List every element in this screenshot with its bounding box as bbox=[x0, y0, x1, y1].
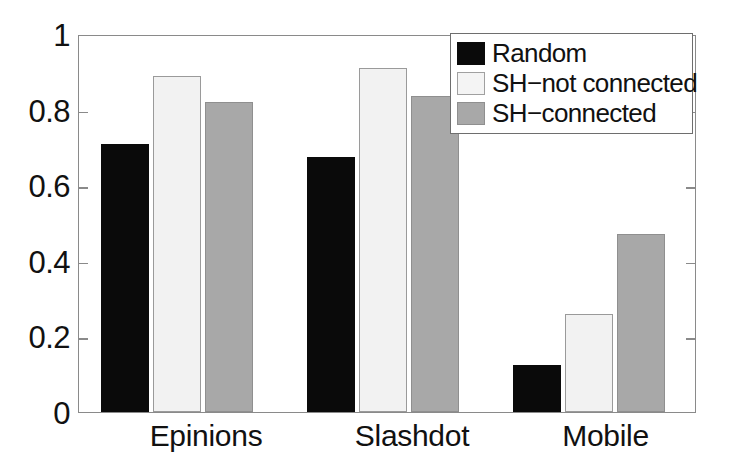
bar-mobile-sh-connected bbox=[617, 234, 665, 412]
x-axis-label-slashdot: Slashdot bbox=[309, 419, 515, 453]
y-tick-label-1: 1 bbox=[8, 20, 70, 51]
bar-chart-figure: 1 0.8 0.6 0.4 0.2 0 Epinions bbox=[0, 0, 729, 468]
y-tickmark-0-2-right bbox=[686, 338, 695, 340]
y-tickmark-0-4-left bbox=[79, 263, 88, 265]
y-axis-tick-labels: 1 0.8 0.6 0.4 0.2 0 bbox=[0, 35, 70, 413]
legend-swatch-random-icon bbox=[457, 42, 485, 65]
legend-label-sh-connected: SH−connected bbox=[492, 100, 656, 126]
bar-mobile-random bbox=[513, 365, 561, 412]
y-tickmark-0-6-right bbox=[686, 187, 695, 189]
y-tick-label-0-8: 0.8 bbox=[8, 95, 70, 126]
bar-slashdot-random bbox=[307, 157, 355, 412]
y-tickmark-0-4-right bbox=[686, 263, 695, 265]
legend-label-sh-not-connected: SH−not connected bbox=[492, 70, 697, 96]
bar-epinions-random bbox=[101, 144, 149, 412]
x-axis-label-epinions: Epinions bbox=[103, 419, 309, 453]
bar-mobile-sh-not-connected bbox=[565, 314, 613, 412]
y-tickmark-0-6-left bbox=[79, 187, 88, 189]
legend-swatch-sh-connected-icon bbox=[457, 102, 485, 125]
y-tick-label-0-2: 0.2 bbox=[8, 322, 70, 353]
bar-epinions-sh-connected bbox=[205, 102, 253, 412]
y-tick-label-0: 0 bbox=[8, 398, 70, 429]
y-tickmark-0-2-left bbox=[79, 338, 88, 340]
bar-epinions-sh-not-connected bbox=[153, 76, 201, 412]
bar-slashdot-sh-connected bbox=[411, 96, 459, 412]
legend-entry-sh-not-connected: SH−not connected bbox=[457, 68, 687, 98]
legend-swatch-sh-not-connected-icon bbox=[457, 72, 485, 95]
y-tick-label-0-6: 0.6 bbox=[8, 171, 70, 202]
legend-entry-sh-connected: SH−connected bbox=[457, 98, 687, 128]
y-tickmark-0-8-left bbox=[79, 112, 88, 114]
y-tick-label-0-4: 0.4 bbox=[8, 246, 70, 277]
x-axis-label-mobile: Mobile bbox=[515, 419, 696, 453]
legend-entry-random: Random bbox=[457, 38, 687, 68]
bar-slashdot-sh-not-connected bbox=[359, 68, 407, 412]
legend-label-random: Random bbox=[492, 40, 587, 66]
chart-legend: Random SH−not connected SH−connected bbox=[450, 33, 693, 134]
